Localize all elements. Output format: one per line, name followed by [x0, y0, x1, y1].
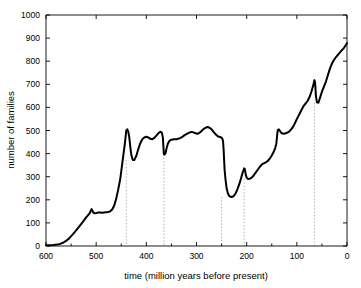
- biodiversity-chart-figure: 01002003004005006007008009001000 6005004…: [0, 0, 361, 288]
- y-tick-label: 200: [26, 195, 40, 205]
- x-axis-title: time (million years before present): [124, 270, 268, 281]
- y-tick-label: 500: [26, 126, 40, 136]
- x-tick-label: 500: [89, 251, 103, 261]
- y-tick-label: 300: [26, 172, 40, 182]
- x-tick-label: 300: [189, 251, 203, 261]
- y-axis-title: number of families: [5, 91, 16, 169]
- y-tick-label: 400: [26, 149, 40, 159]
- x-tick-label: 100: [290, 251, 304, 261]
- x-axis-ticks: 6005004003002001000: [39, 15, 350, 261]
- y-tick-label: 600: [26, 102, 40, 112]
- chart-canvas: 01002003004005006007008009001000 6005004…: [0, 0, 361, 288]
- x-tick-label: 0: [345, 251, 350, 261]
- x-tick-label: 400: [139, 251, 153, 261]
- x-tick-label: 200: [240, 251, 254, 261]
- y-tick-label: 100: [26, 218, 40, 228]
- y-tick-label: 900: [26, 33, 40, 43]
- y-tick-label: 700: [26, 79, 40, 89]
- x-tick-label: 600: [39, 251, 53, 261]
- extinction-event-lines: [126, 103, 314, 246]
- y-axis-ticks: 01002003004005006007008009001000: [21, 10, 347, 251]
- y-tick-label: 1000: [21, 10, 40, 20]
- y-tick-label: 800: [26, 56, 40, 66]
- biodiversity-curve: [46, 43, 347, 245]
- y-tick-label: 0: [35, 241, 40, 251]
